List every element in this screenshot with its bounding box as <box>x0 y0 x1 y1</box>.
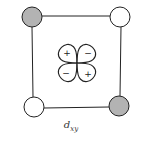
ligand-top-left-shaded <box>22 7 42 27</box>
orbital-caption: dxy <box>0 119 142 133</box>
caption-subscript: xy <box>70 125 78 133</box>
ligand-bottom-right-shaded <box>109 96 129 116</box>
ligand-bottom-left-open <box>24 97 44 117</box>
square-left-edge <box>32 27 33 97</box>
dxy-orbital <box>55 41 99 85</box>
ligand-top-right-open <box>110 7 130 27</box>
square-right-edge <box>120 27 121 96</box>
sign-bottom-right: + <box>84 69 92 79</box>
sign-bottom-left: − <box>62 68 70 78</box>
sign-top-left: + <box>63 48 71 58</box>
square-bottom-edge <box>44 107 109 108</box>
sign-top-right: − <box>84 48 92 58</box>
